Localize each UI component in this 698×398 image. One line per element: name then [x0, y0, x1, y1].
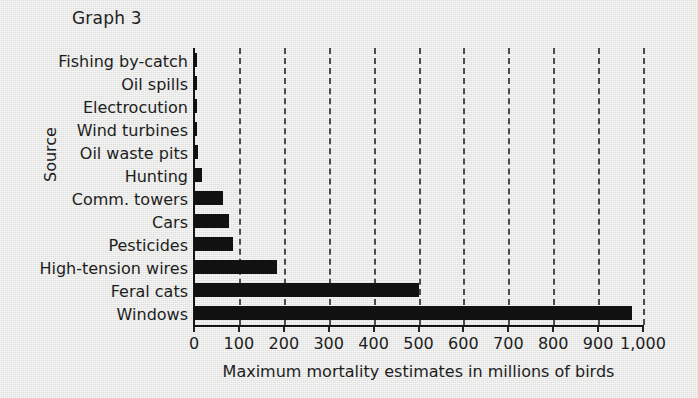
bar-row: Hunting: [194, 163, 643, 186]
x-tick-label: 300: [313, 334, 344, 353]
bar: [194, 306, 632, 320]
bar: [194, 53, 197, 67]
bar-row: Electrocution: [194, 94, 643, 117]
x-tick-mark: [238, 327, 240, 332]
category-label: Windows: [117, 307, 188, 323]
bar: [194, 260, 277, 274]
bar-row: High-tension wires: [194, 256, 643, 279]
x-tick-label: 1,000: [620, 334, 666, 353]
x-tick-mark: [507, 327, 509, 332]
x-tick-label: 100: [224, 334, 255, 353]
bar-row: Comm. towers: [194, 187, 643, 210]
bar: [194, 122, 197, 136]
bar-row: Feral cats: [194, 279, 643, 302]
category-label: Cars: [152, 215, 188, 231]
bar: [194, 283, 419, 297]
category-label: High-tension wires: [39, 261, 188, 277]
bar: [194, 214, 229, 228]
category-label: Electrocution: [83, 100, 188, 116]
category-label: Wind turbines: [77, 123, 188, 139]
bar-row: Oil spills: [194, 71, 643, 94]
x-tick-mark: [597, 327, 599, 332]
x-tick-mark: [373, 327, 375, 332]
bar-row: Wind turbines: [194, 117, 643, 140]
chart-figure: Graph 3 Source 0100200300400500600700800…: [0, 0, 698, 398]
x-tick-mark: [328, 327, 330, 332]
bar: [194, 76, 197, 90]
plot-area: 01002003004005006007008009001,000 Fishin…: [194, 48, 643, 325]
x-tick-label: 200: [269, 334, 300, 353]
chart-title: Graph 3: [72, 8, 142, 28]
x-tick-label: 400: [358, 334, 389, 353]
bar-row: Pesticides: [194, 233, 643, 256]
x-tick-mark: [283, 327, 285, 332]
category-label: Feral cats: [111, 284, 188, 300]
category-label: Oil spills: [121, 77, 188, 93]
bar: [194, 191, 223, 205]
gridline: [643, 48, 645, 325]
x-tick-label: 600: [448, 334, 479, 353]
bar-row: Windows: [194, 302, 643, 325]
category-label: Hunting: [125, 169, 188, 185]
x-tick-label: 700: [493, 334, 524, 353]
x-tick-mark: [552, 327, 554, 332]
x-tick-mark: [418, 327, 420, 332]
bar-row: Fishing by-catch: [194, 48, 643, 71]
bar: [194, 99, 197, 113]
x-tick-mark: [193, 327, 195, 332]
x-tick-mark: [462, 327, 464, 332]
category-label: Comm. towers: [72, 192, 188, 208]
bar-row: Oil waste pits: [194, 140, 643, 163]
bar: [194, 237, 233, 251]
category-label: Pesticides: [108, 238, 188, 254]
x-tick-label: 900: [583, 334, 614, 353]
x-tick-label: 800: [538, 334, 569, 353]
x-tick-label: 0: [189, 334, 199, 353]
x-tick-label: 500: [403, 334, 434, 353]
category-label: Fishing by-catch: [58, 54, 188, 70]
bar-row: Cars: [194, 210, 643, 233]
y-axis-title: Source: [41, 125, 60, 185]
bar: [194, 168, 202, 182]
x-axis-title: Maximum mortality estimates in millions …: [194, 362, 643, 381]
bar: [194, 145, 198, 159]
category-label: Oil waste pits: [80, 146, 188, 162]
x-tick-mark: [642, 327, 644, 332]
